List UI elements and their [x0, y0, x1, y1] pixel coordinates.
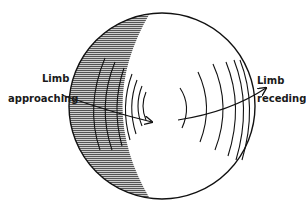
- diagram-canvas: Limb approaching Limb receding: [0, 0, 306, 210]
- shaded-crescent: [57, 13, 150, 199]
- receding-wavefronts: [180, 60, 250, 160]
- label-limb-approaching-2: approaching: [8, 93, 78, 104]
- label-limb-receding-2: receding: [257, 93, 306, 104]
- label-limb-approaching-1: Limb: [42, 73, 69, 84]
- label-limb-receding-1: Limb: [257, 75, 284, 86]
